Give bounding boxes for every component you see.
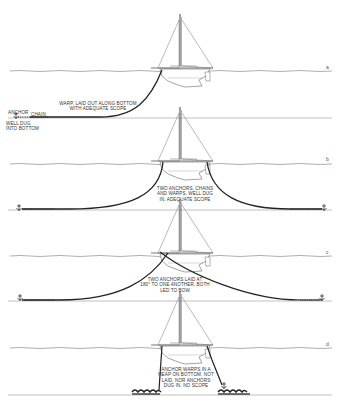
panel-letter-d: d bbox=[326, 341, 329, 347]
label-b: TWO ANCHORS, CHAINS AND WARPS, WELL DUG … bbox=[150, 186, 220, 202]
warp-b-left bbox=[22, 162, 163, 209]
label-dug-a: WELL DUG INTO BOTTOM bbox=[6, 121, 39, 132]
label-anchor-a: ANCHOR bbox=[8, 110, 29, 115]
panel-letter-a: a bbox=[326, 64, 329, 70]
panel-letter-b: b bbox=[326, 156, 329, 162]
label-warp-a: WARP, LAID OUT ALONG BOTTOM WITH ADEQUAT… bbox=[58, 101, 138, 112]
heap-right bbox=[218, 390, 247, 392]
label-c: TWO ANCHORS LAID AT 180° TO ONE ANOTHER,… bbox=[133, 277, 217, 293]
panel-letter-c: c bbox=[326, 249, 329, 255]
heap-left bbox=[132, 390, 161, 392]
label-chain-a: CHAIN bbox=[31, 112, 46, 117]
panel-a bbox=[8, 14, 332, 119]
label-d: ANCHOR WARPS IN A HEAP ON BOTTOM, NOT LA… bbox=[156, 367, 216, 389]
warp-b-right bbox=[207, 162, 322, 209]
